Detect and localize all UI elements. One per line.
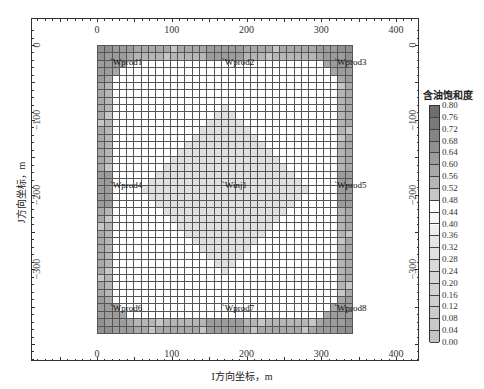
grid-cell xyxy=(149,297,156,304)
grid-cell xyxy=(164,312,171,319)
grid-cell xyxy=(251,105,258,112)
grid-cell xyxy=(222,172,229,179)
tick xyxy=(31,314,34,315)
grid-cell xyxy=(200,135,207,142)
grid-cell xyxy=(215,179,222,186)
grid-cell xyxy=(324,127,331,134)
grid-cell xyxy=(346,260,353,267)
grid-cell xyxy=(346,120,353,127)
grid-cell xyxy=(156,304,163,311)
grid-cell xyxy=(309,127,316,134)
grid-cell xyxy=(193,157,200,164)
grid-cell xyxy=(324,105,331,112)
grid-cell xyxy=(295,304,302,311)
grid-cell xyxy=(193,253,200,260)
grid-cell xyxy=(309,253,316,260)
grid-cell xyxy=(98,135,105,142)
grid-cell xyxy=(258,282,265,289)
grid-cell xyxy=(222,238,229,245)
grid-cell xyxy=(185,268,192,275)
tick xyxy=(403,18,404,21)
grid-cell xyxy=(287,304,294,311)
grid-cell xyxy=(317,61,324,68)
tick xyxy=(381,359,382,362)
grid-cell xyxy=(171,127,178,134)
grid-cell xyxy=(338,105,345,112)
grid-cell xyxy=(156,105,163,112)
grid-cell xyxy=(302,201,309,208)
grid-cell xyxy=(280,127,287,134)
grid-cell xyxy=(193,105,200,112)
grid-cell xyxy=(164,172,171,179)
grid-cell xyxy=(324,46,331,53)
grid-cell xyxy=(215,275,222,282)
tick xyxy=(276,359,277,362)
grid-cell xyxy=(229,260,236,267)
grid-cell xyxy=(273,290,280,297)
grid-cell xyxy=(309,245,316,252)
grid-cell xyxy=(171,112,178,119)
grid-cell xyxy=(178,304,185,311)
grid-cell xyxy=(287,312,294,319)
grid-cell xyxy=(280,238,287,245)
grid-cell xyxy=(127,112,134,119)
grid-cell xyxy=(258,208,265,215)
colorbar-segment xyxy=(430,213,439,225)
grid-cell xyxy=(178,201,185,208)
grid-cell xyxy=(251,194,258,201)
grid-cell xyxy=(244,208,251,215)
grid-cell xyxy=(287,275,294,282)
grid-cell xyxy=(134,149,141,156)
grid-cell xyxy=(215,238,222,245)
grid-cell xyxy=(317,319,324,326)
grid-cell xyxy=(113,216,120,223)
grid-cell xyxy=(98,290,105,297)
grid-cell xyxy=(309,164,316,171)
tick xyxy=(149,18,150,21)
grid-cell xyxy=(113,135,120,142)
grid-cell xyxy=(193,201,200,208)
grid-cell xyxy=(229,216,236,223)
grid-cell xyxy=(331,208,338,215)
grid-cell xyxy=(185,142,192,149)
grid-cell xyxy=(207,275,214,282)
grid-cell xyxy=(134,127,141,134)
grid-cell xyxy=(142,68,149,75)
grid-cell xyxy=(287,127,294,134)
grid-cell xyxy=(185,275,192,282)
grid-cell xyxy=(287,327,294,334)
grid-cell xyxy=(317,172,324,179)
grid-cell xyxy=(105,98,112,105)
grid-cell xyxy=(113,83,120,90)
grid-cell xyxy=(324,135,331,142)
grid-cell xyxy=(331,83,338,90)
grid-cell xyxy=(309,238,316,245)
grid-cell xyxy=(142,112,149,119)
grid-cell xyxy=(229,68,236,75)
grid-cell xyxy=(207,164,214,171)
grid-cell xyxy=(236,164,243,171)
grid-cell xyxy=(200,319,207,326)
grid-cell xyxy=(127,290,134,297)
grid-cell xyxy=(222,98,229,105)
grid-cell xyxy=(127,231,134,238)
grid-cell xyxy=(266,327,273,334)
grid-cell xyxy=(346,290,353,297)
grid-cell xyxy=(215,112,222,119)
grid-cell xyxy=(309,135,316,142)
grid-cell xyxy=(142,253,149,260)
grid-cell xyxy=(295,216,302,223)
grid-cell xyxy=(302,83,309,90)
grid-cell xyxy=(302,98,309,105)
grid-cell xyxy=(222,83,229,90)
grid-cell xyxy=(207,112,214,119)
tick xyxy=(179,18,180,21)
grid-cell xyxy=(346,142,353,149)
grid-cell xyxy=(127,120,134,127)
grid-cell xyxy=(251,112,258,119)
grid-cell xyxy=(149,76,156,83)
grid-cell xyxy=(295,83,302,90)
grid-cell xyxy=(302,46,309,53)
grid-cell xyxy=(113,327,120,334)
tick xyxy=(224,359,225,362)
